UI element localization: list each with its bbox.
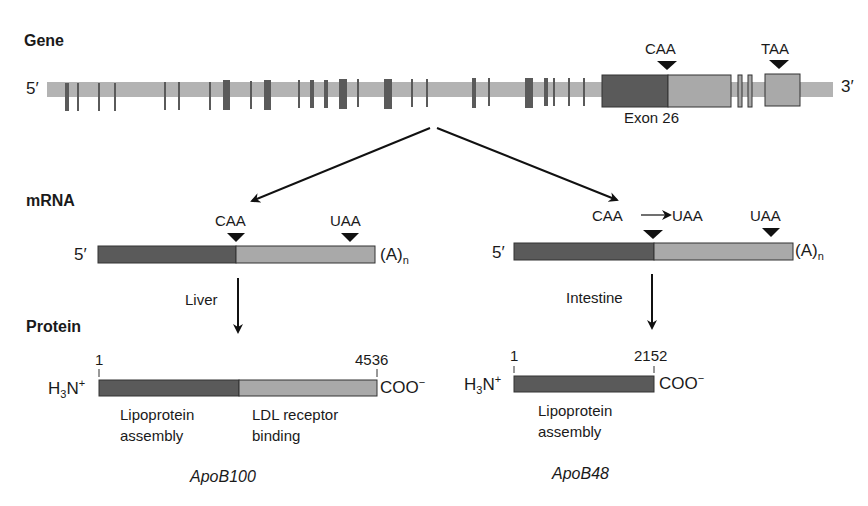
intestine-label: Intestine (566, 289, 623, 306)
apob48-domain1-label: Lipoprotein assembly (538, 400, 612, 442)
apob48-domain-lipoprotein (514, 376, 654, 392)
mrna-right-light (654, 243, 793, 260)
mrna-right-dark (514, 243, 654, 260)
mrna-right-uaa-label: UAA (750, 207, 781, 224)
apob100-domain2-label: LDL receptor binding (252, 404, 338, 446)
gene-caa-label: CAA (645, 40, 676, 57)
gene-taa-label: TAA (761, 40, 789, 57)
mrna-left-uaa-label: UAA (330, 212, 361, 229)
mrna-left-dark (98, 246, 236, 263)
exon26-dark (602, 75, 668, 107)
mrna-section-label: mRNA (26, 192, 75, 210)
protein-section-label: Protein (26, 318, 81, 336)
apob48-c-terminus: COO− (659, 372, 704, 394)
apob100-c-terminus: COO− (380, 376, 425, 398)
gene-three-prime-label: 3′ (841, 77, 854, 97)
mrna-left-uaa-marker-icon (341, 233, 359, 242)
apob48-start-pos: 1 (510, 347, 518, 364)
liver-label: Liver (185, 291, 218, 308)
apob48-name: ApoB48 (552, 465, 609, 483)
gene-five-prime-label: 5′ (26, 79, 39, 99)
apob48-n-terminus: H3N+ (464, 373, 501, 396)
mrna-left-five-prime-label: 5′ (74, 245, 87, 265)
mrna-right-polya-label: (A)n (795, 241, 824, 262)
mrna-right-edit-to-label: UAA (672, 207, 703, 224)
mrna-left-caa-marker-icon (227, 233, 245, 242)
apob100-name: ApoB100 (190, 468, 256, 486)
apob48-end-pos: 2152 (634, 347, 667, 364)
mrna-right-edit-from-label: CAA (592, 207, 623, 224)
exon26-light (668, 75, 731, 107)
last-exon (765, 74, 800, 106)
gene-section-label: Gene (24, 32, 64, 50)
mrna-right-five-prime-label: 5′ (492, 243, 505, 263)
mrna-right-uaa-marker-icon (762, 228, 780, 237)
apob100-end-pos: 4536 (355, 351, 388, 368)
apob100-domain-ldl (239, 380, 377, 396)
mrna-left-light (236, 246, 375, 263)
gene-taa-marker-icon (769, 60, 789, 69)
apob100-domain-lipoprotein (99, 380, 239, 396)
apob100-domain1-label: Lipoprotein assembly (120, 404, 194, 446)
arrow-to-intestine-mrna (437, 128, 617, 200)
mrna-right-edit-marker-icon (643, 230, 663, 239)
exon26-label: Exon 26 (624, 109, 679, 126)
arrow-to-liver-mrna (252, 128, 430, 201)
apob100-n-terminus: H3N+ (48, 377, 85, 400)
mrna-left-caa-label: CAA (215, 212, 246, 229)
mrna-left-polya-label: (A)n (380, 245, 409, 266)
gene-caa-marker-icon (657, 61, 677, 70)
apob100-start-pos: 1 (95, 351, 103, 368)
